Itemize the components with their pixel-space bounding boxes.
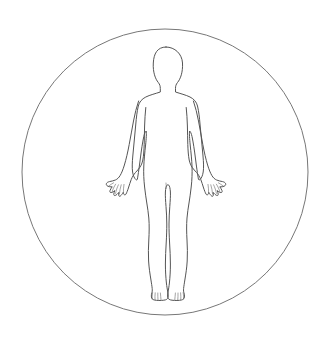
diagram-background <box>0 0 332 348</box>
body-diagram-container <box>0 0 332 348</box>
body-diagram <box>0 0 332 348</box>
